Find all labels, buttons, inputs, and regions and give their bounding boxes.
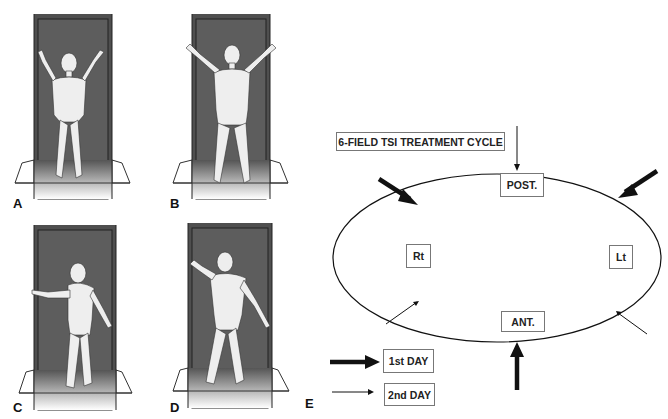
legend-1st-day: 1st DAY [383,349,434,373]
field-left: Lt [609,245,633,269]
field-posterior: POST. [500,173,544,197]
panel-label-b: B [170,196,179,211]
field-right: Rt [406,244,431,268]
panel-b-booth [173,14,288,199]
panel-label-c: C [13,400,22,415]
panel-c-booth [19,225,132,410]
diagram-title: 6-FIELD TSI TREATMENT CYCLE [336,132,505,151]
field-anterior: ANT. [501,311,545,332]
legend-2nd-day: 2nd DAY [384,383,435,406]
panel-label-a: A [13,196,22,211]
panel-label-d: D [170,400,179,415]
panel-d-booth [173,223,289,408]
figure-illustrations [0,0,668,419]
panel-label-e: E [305,396,314,411]
panel-a-booth [15,14,130,199]
